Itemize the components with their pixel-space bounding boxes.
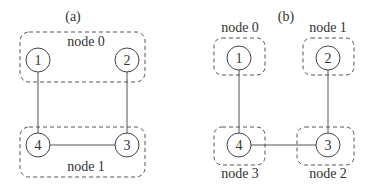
vertex-label: 1 (35, 53, 42, 68)
group-label-node-1: node 1 (309, 20, 347, 35)
vertex-label: 2 (325, 51, 332, 66)
vertex-2: 2 (316, 46, 340, 70)
vertex-3: 3 (115, 133, 139, 157)
diagram-canvas: (a) node 0 node 1 1 2 3 4 (b) no (0, 0, 368, 189)
panel-a: (a) node 0 node 1 1 2 3 4 (20, 9, 145, 177)
vertex-4: 4 (227, 133, 251, 157)
vertex-label: 3 (124, 138, 131, 153)
group-label-node-0: node 0 (221, 20, 259, 35)
panel-b: (b) node 0 node 1 node 3 node 2 1 2 3 (214, 9, 354, 181)
vertex-label: 2 (124, 53, 131, 68)
panel-a-label: (a) (65, 9, 81, 25)
vertex-2: 2 (115, 48, 139, 72)
vertex-1: 1 (26, 48, 50, 72)
vertex-label: 4 (35, 138, 42, 153)
panel-b-label: (b) (278, 9, 295, 25)
group-label-node-0: node 0 (67, 34, 105, 49)
vertex-label: 3 (325, 138, 332, 153)
group-label-node-3: node 3 (221, 166, 259, 181)
vertex-4: 4 (26, 133, 50, 157)
vertex-1: 1 (227, 46, 251, 70)
vertex-3: 3 (316, 133, 340, 157)
vertex-label: 1 (236, 51, 243, 66)
group-label-node-1: node 1 (67, 159, 105, 174)
vertex-label: 4 (236, 138, 243, 153)
group-label-node-2: node 2 (309, 166, 347, 181)
